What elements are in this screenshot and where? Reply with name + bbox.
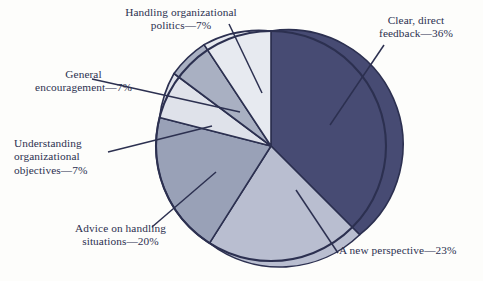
pie-label-general-encouragement: General encouragement—7%: [6, 68, 161, 95]
pie-label-handling-politics: Handling organizational politics—7%: [97, 6, 265, 33]
pie-label-advice-handling-situations: Advice on handling situations—20%: [38, 222, 203, 249]
pie-chart-figure: Handling organizational politics—7% Clea…: [0, 0, 483, 281]
pie-label-new-perspective: A new perspective—23%: [339, 244, 483, 257]
pie-label-clear-direct-feedback: Clear, direct feedback—36%: [352, 14, 480, 41]
pie-label-understanding-objectives: Understanding organizational objectives—…: [14, 137, 154, 177]
